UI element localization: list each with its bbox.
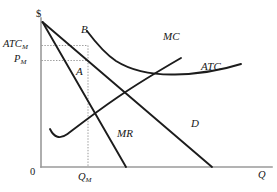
monopoly-diagram: $ ATCM PM 0 QM Q B A MC ATC MR D	[0, 0, 277, 192]
y-axis-label: $	[36, 9, 41, 20]
q-m-label-sub: M	[86, 176, 92, 184]
curve-label-atc: ATC	[201, 61, 221, 72]
marginal-revenue-curve	[43, 22, 127, 167]
point-label-b: B	[81, 24, 88, 35]
curve-label-mr: MR	[117, 128, 133, 139]
demand-curve	[43, 22, 213, 167]
atc-m-label-sub: M	[22, 43, 28, 51]
x-axis-label: Q	[258, 170, 266, 181]
origin-label: 0	[30, 167, 35, 178]
curve-label-mc: MC	[163, 31, 180, 42]
point-label-a: A	[76, 66, 83, 77]
atc-m-label: ATCM	[3, 39, 28, 51]
p-m-label: PM	[14, 54, 26, 66]
curve-label-d: D	[191, 118, 199, 129]
diagram-canvas	[0, 0, 277, 192]
q-m-label-base: Q	[78, 171, 86, 182]
q-m-label: QM	[78, 172, 92, 184]
atc-m-label-base: ATC	[3, 38, 22, 49]
p-m-label-sub: M	[20, 58, 26, 66]
